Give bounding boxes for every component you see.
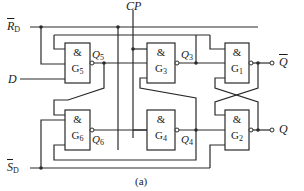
circuit-diagram: RD D SD CP Q Q &G5 &G3 &G1 &G6 &G4 &G2 Q… xyxy=(0,0,304,191)
q-label: Q xyxy=(279,123,288,135)
figure-caption: (a) xyxy=(135,175,147,187)
gate-g2-label: &G2 xyxy=(225,114,249,143)
q4-label: Q4 xyxy=(181,134,193,147)
gate-g4-label: &G4 xyxy=(147,114,175,143)
gate-g6-label: &G6 xyxy=(65,114,90,143)
q3-label: Q3 xyxy=(181,49,193,62)
qbar-label: Q xyxy=(279,56,288,68)
sd-label: SD xyxy=(7,161,19,175)
q6-label: Q6 xyxy=(92,134,104,147)
q5-label: Q5 xyxy=(92,49,104,62)
gate-g5-label: &G5 xyxy=(65,47,90,76)
gate-g1-label: &G1 xyxy=(225,47,249,76)
gate-g3-label: &G3 xyxy=(147,47,175,76)
d-label: D xyxy=(8,73,17,85)
rd-label: RD xyxy=(7,20,20,34)
cp-label: CP xyxy=(126,0,141,12)
circuit-wires xyxy=(0,0,304,191)
